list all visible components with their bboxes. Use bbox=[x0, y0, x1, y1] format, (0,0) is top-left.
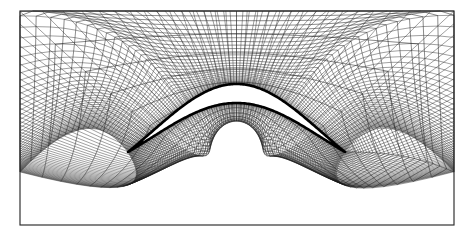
mesh-line bbox=[274, 11, 360, 95]
mesh-line bbox=[311, 83, 454, 122]
mesh-line bbox=[20, 16, 185, 105]
mesh-line bbox=[217, 11, 229, 84]
mesh-line bbox=[20, 68, 170, 117]
mesh-line bbox=[303, 67, 454, 116]
mesh-line bbox=[113, 11, 199, 95]
mesh-line bbox=[20, 64, 199, 157]
mesh-line bbox=[20, 84, 162, 123]
mesh-line bbox=[281, 11, 403, 100]
mesh-line bbox=[244, 11, 256, 84]
mesh-line bbox=[65, 24, 421, 188]
cfd-mesh-figure bbox=[0, 0, 472, 239]
figure-frame bbox=[20, 11, 454, 225]
mesh-line bbox=[70, 11, 192, 100]
mesh-line bbox=[20, 44, 178, 109]
figure-root bbox=[0, 0, 472, 239]
mesh-line bbox=[20, 121, 135, 163]
